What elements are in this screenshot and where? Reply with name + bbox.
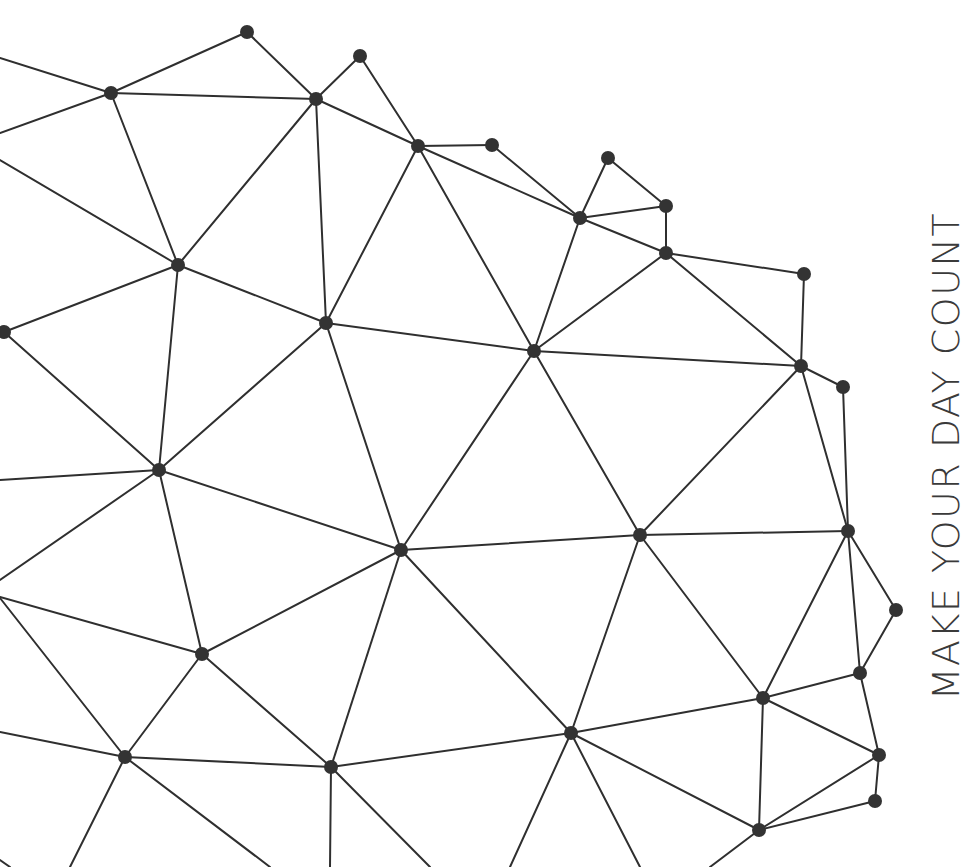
network-edge xyxy=(330,767,331,867)
network-edge xyxy=(0,470,159,480)
network-node-dot xyxy=(195,647,209,661)
polygon-network xyxy=(0,25,903,867)
network-node-dot xyxy=(756,691,770,705)
network-node-dot xyxy=(564,726,578,740)
network-node-dot xyxy=(118,750,132,764)
network-edge xyxy=(801,366,843,387)
network-edge xyxy=(331,550,401,767)
network-edges xyxy=(0,32,896,867)
network-edge xyxy=(4,265,178,332)
network-edge xyxy=(0,732,125,757)
network-node-dot xyxy=(309,92,323,106)
network-node-dot xyxy=(633,528,647,542)
network-node-dot xyxy=(353,49,367,63)
network-edge xyxy=(510,733,571,867)
network-edge xyxy=(316,99,326,323)
network-node-dot xyxy=(836,380,850,394)
network-edge xyxy=(326,323,401,550)
network-edge xyxy=(159,470,202,654)
network-edge xyxy=(534,253,666,351)
network-edge xyxy=(0,58,111,93)
network-node-dot xyxy=(527,344,541,358)
network-node-dot xyxy=(319,316,333,330)
network-node-dot xyxy=(104,86,118,100)
network-edge xyxy=(801,274,804,366)
network-node-dot xyxy=(394,543,408,557)
network-edge xyxy=(640,535,763,698)
network-edge xyxy=(0,93,111,133)
network-edge xyxy=(763,673,860,698)
network-edge xyxy=(159,265,178,470)
network-edge xyxy=(571,535,640,733)
network-edge xyxy=(159,470,401,550)
network-edge xyxy=(418,146,580,218)
network-node-dot xyxy=(659,246,673,260)
network-edge xyxy=(0,598,125,757)
network-edge xyxy=(848,531,896,610)
network-node-dot xyxy=(411,139,425,153)
network-edge xyxy=(848,531,860,673)
network-edge xyxy=(178,99,316,265)
network-node-dot xyxy=(171,258,185,272)
network-edge xyxy=(401,550,571,733)
network-edge xyxy=(111,32,247,93)
network-edge xyxy=(759,698,763,830)
network-edge xyxy=(247,32,316,99)
network-edge xyxy=(608,158,666,206)
network-illustration xyxy=(0,0,967,867)
network-node-dot xyxy=(324,760,338,774)
network-edge xyxy=(0,160,178,265)
network-edge xyxy=(125,654,202,757)
network-edge xyxy=(580,206,666,218)
network-node-dot xyxy=(601,151,615,165)
network-edge xyxy=(843,387,848,531)
network-edge xyxy=(759,755,879,830)
network-edge xyxy=(710,830,759,867)
network-edge xyxy=(640,366,801,535)
network-edge xyxy=(0,597,202,654)
network-edge xyxy=(534,351,801,366)
network-node-dot xyxy=(659,199,673,213)
network-edge xyxy=(401,535,640,550)
network-edge xyxy=(70,757,125,867)
network-edge xyxy=(763,531,848,698)
network-edge xyxy=(316,56,360,99)
network-edge xyxy=(571,698,763,733)
network-node-dot xyxy=(841,524,855,538)
network-edge xyxy=(763,698,879,755)
network-edge xyxy=(331,733,571,767)
network-edge xyxy=(159,323,326,470)
network-node-dot xyxy=(889,603,903,617)
network-node-dot xyxy=(240,25,254,39)
network-edge xyxy=(111,93,178,265)
network-edge xyxy=(580,218,666,253)
network-edge xyxy=(571,733,640,867)
network-edge xyxy=(534,218,580,351)
network-edge xyxy=(418,145,492,146)
network-edge xyxy=(0,470,159,580)
network-edge xyxy=(111,93,316,99)
network-edge xyxy=(326,323,534,351)
network-node-dot xyxy=(797,267,811,281)
network-edge xyxy=(4,332,159,470)
tagline-text: MAKE YOUR DAY COUNT xyxy=(924,212,967,700)
network-edge xyxy=(860,610,896,673)
network-edge xyxy=(178,265,326,323)
network-edge xyxy=(580,158,608,218)
network-edge xyxy=(759,801,875,830)
network-node-dot xyxy=(152,463,166,477)
network-edge xyxy=(202,550,401,654)
network-edge xyxy=(860,673,879,755)
network-nodes xyxy=(0,25,903,837)
network-node-dot xyxy=(794,359,808,373)
network-edge xyxy=(331,767,430,867)
network-node-dot xyxy=(573,211,587,225)
network-node-dot xyxy=(872,748,886,762)
network-edge xyxy=(125,757,331,767)
network-edge xyxy=(571,733,759,830)
network-node-dot xyxy=(752,823,766,837)
network-edge xyxy=(401,351,534,550)
network-node-dot xyxy=(853,666,867,680)
network-edge xyxy=(640,531,848,535)
network-edge xyxy=(202,654,331,767)
